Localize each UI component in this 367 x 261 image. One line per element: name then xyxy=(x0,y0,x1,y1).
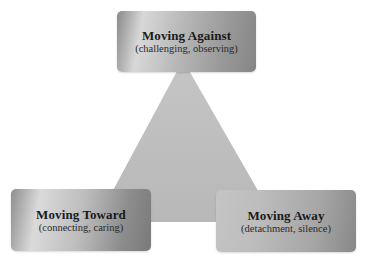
node-subtitle: (connecting, caring) xyxy=(39,222,124,234)
node-moving-away: Moving Away (detachment, silence) xyxy=(216,190,356,252)
node-title: Moving Away xyxy=(247,208,324,223)
node-subtitle: (challenging, observing) xyxy=(135,43,238,55)
node-title: Moving Against xyxy=(142,28,231,43)
node-title: Moving Toward xyxy=(36,207,126,222)
node-moving-toward: Moving Toward (connecting, caring) xyxy=(11,189,151,251)
node-moving-against: Moving Against (challenging, observing) xyxy=(117,11,256,72)
node-subtitle: (detachment, silence) xyxy=(241,223,331,235)
